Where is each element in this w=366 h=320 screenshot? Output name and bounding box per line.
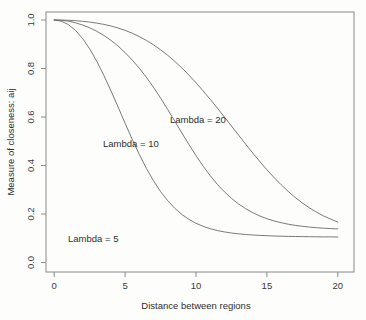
x-tick-label: 0	[52, 280, 57, 291]
plot-canvas: 0.0 0.2 0.4 0.6 0.8 1.0 0 5 10 15 20 Dis…	[0, 0, 366, 320]
curve-annotations: Lambda = 20 Lambda = 10 Lambda = 5	[68, 114, 226, 244]
x-tick-label: 10	[191, 280, 202, 291]
y-tick-label: 0.8	[25, 62, 36, 75]
chart-screenshot: 0.0 0.2 0.4 0.6 0.8 1.0 0 5 10 15 20 Dis…	[0, 0, 366, 320]
y-tick-label: 0.4	[25, 159, 36, 172]
y-tick-label: 0.0	[25, 256, 36, 269]
y-tick-label: 1.0	[25, 13, 36, 26]
y-tick-label: 0.2	[25, 207, 36, 220]
y-axis-tick-labels: 0.0 0.2 0.4 0.6 0.8 1.0	[25, 13, 36, 269]
annotation-lambda-10: Lambda = 10	[103, 138, 159, 149]
annotation-lambda-5: Lambda = 5	[68, 233, 118, 244]
y-axis-title: Measure of closeness: aij	[5, 88, 16, 195]
x-axis-ticks	[54, 272, 338, 277]
curve-lambda-5	[54, 20, 338, 237]
annotation-lambda-20: Lambda = 20	[170, 114, 226, 125]
x-tick-label: 20	[333, 280, 344, 291]
x-tick-label: 15	[262, 280, 273, 291]
y-axis-ticks	[41, 20, 46, 263]
x-tick-label: 5	[122, 280, 127, 291]
x-axis-title: Distance between regions	[141, 300, 251, 311]
data-curves	[54, 20, 338, 237]
y-tick-label: 0.6	[25, 110, 36, 123]
x-axis-tick-labels: 0 5 10 15 20	[52, 280, 344, 291]
